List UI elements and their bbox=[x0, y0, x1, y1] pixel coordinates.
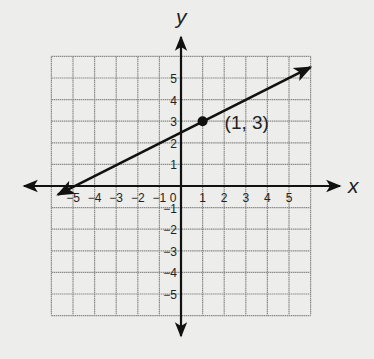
line-y-equals-half-x-plus-2-5 bbox=[58, 67, 311, 194]
x-tick-label: −4 bbox=[88, 191, 102, 205]
y-tick-label: −1 bbox=[163, 202, 177, 216]
y-tick-label: 5 bbox=[170, 72, 177, 86]
y-tick-label: −3 bbox=[163, 245, 177, 259]
x-tick-label: 1 bbox=[199, 191, 206, 205]
y-tick-label: −5 bbox=[163, 288, 177, 302]
x-tick-label: 3 bbox=[242, 191, 249, 205]
y-tick-label: −2 bbox=[163, 223, 177, 237]
graph-svg: −5−4−3−2−1012345−5−4−3−2−112345 (1, 3) x… bbox=[0, 0, 374, 359]
x-tick-label: −2 bbox=[131, 191, 145, 205]
y-tick-label: 3 bbox=[170, 115, 177, 129]
x-axis-label: x bbox=[347, 174, 360, 197]
y-axis-label: y bbox=[174, 5, 188, 28]
y-tick-label: 4 bbox=[170, 94, 177, 108]
coordinate-plane: −5−4−3−2−1012345−5−4−3−2−112345 (1, 3) x… bbox=[0, 0, 374, 359]
y-tick-label: −4 bbox=[163, 266, 177, 280]
data-line bbox=[58, 67, 311, 194]
x-tick-label: −5 bbox=[66, 191, 80, 205]
y-tick-label: 1 bbox=[170, 158, 177, 172]
x-tick-label: 4 bbox=[264, 191, 271, 205]
data-points: (1, 3) bbox=[198, 112, 269, 133]
point-label: (1, 3) bbox=[225, 112, 269, 133]
x-tick-label: −3 bbox=[109, 191, 123, 205]
y-tick-label: 2 bbox=[170, 137, 177, 151]
x-tick-label: 5 bbox=[286, 191, 293, 205]
point-marker bbox=[198, 116, 208, 126]
x-tick-label: 2 bbox=[221, 191, 228, 205]
